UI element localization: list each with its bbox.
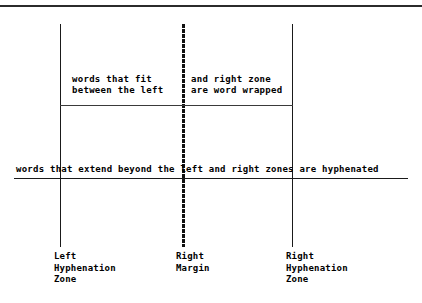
right-zone-label-line-2: Hyphenation bbox=[286, 263, 348, 275]
wrapped-text-left-block: words that fit between the left bbox=[72, 74, 164, 96]
wrapped-left-line-2: between the left bbox=[72, 85, 164, 96]
right-margin-label-line-1: Right bbox=[176, 251, 210, 263]
hyphenation-zone-figure: words that fit between the left and righ… bbox=[0, 0, 422, 303]
right-margin-label-line-2: Margin bbox=[176, 263, 210, 275]
wrapped-text-right-block: and right zone are word wrapped bbox=[191, 74, 283, 96]
left-zone-label-line-2: Hyphenation bbox=[54, 263, 116, 275]
label-right-hyphenation-zone: Right Hyphenation Zone bbox=[286, 251, 348, 286]
right-margin-line bbox=[182, 24, 185, 247]
wrapped-right-line-1: and right zone bbox=[191, 74, 283, 85]
left-zone-label-line-1: Left bbox=[54, 251, 116, 263]
hyphenated-text-line: words that extend beyond the left and ri… bbox=[16, 164, 379, 175]
label-left-hyphenation-zone: Left Hyphenation Zone bbox=[54, 251, 116, 286]
right-zone-label-line-3: Zone bbox=[286, 274, 348, 286]
left-zone-label-line-3: Zone bbox=[54, 274, 116, 286]
text-block-baseline-rule bbox=[60, 105, 293, 106]
right-hyphenation-zone-line bbox=[292, 24, 293, 247]
right-zone-label-line-1: Right bbox=[286, 251, 348, 263]
top-page-rule bbox=[0, 5, 422, 7]
left-hyphenation-zone-line bbox=[60, 24, 61, 247]
wrapped-left-line-1: words that fit bbox=[72, 74, 164, 85]
wrapped-right-line-2: are word wrapped bbox=[191, 85, 283, 96]
label-right-margin: Right Margin bbox=[176, 251, 210, 274]
hyphenated-baseline-rule bbox=[14, 178, 408, 179]
